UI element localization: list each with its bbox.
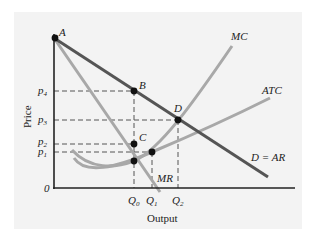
point-c [131,141,138,148]
price-ticks: p4 p3 p2 p1 [37,84,48,159]
tick-q1: Q1 [146,194,157,208]
point-b [131,88,138,95]
x-axis-title: Output [147,212,178,224]
label-mc: MC [230,30,248,42]
label-mr: MR [156,172,173,184]
point-atc-min [149,149,156,156]
demand-curve [54,38,268,177]
label-demand: D = AR [250,151,285,163]
tick-p3: p3 [37,113,48,127]
point-d [175,117,182,124]
y-axis-title: Price [21,105,33,128]
quantity-ticks: Q0 Q1 Q2 [128,194,184,208]
tick-q0: Q0 [128,194,140,208]
label-d: D [173,102,182,114]
points [52,35,182,165]
point-mr-mc [131,158,138,165]
monopoly-diagram: A B C D MC ATC MR D = AR p4 p3 p2 p1 0 Q… [0,0,320,247]
mr-curve [54,38,160,192]
label-a: A [58,26,66,38]
point-a [52,35,59,42]
tick-q2: Q2 [172,194,184,208]
label-c: C [139,131,147,143]
label-b: B [139,79,146,91]
label-atc: ATC [261,84,282,96]
origin-label: 0 [44,182,50,194]
tick-p4: p4 [37,84,48,98]
